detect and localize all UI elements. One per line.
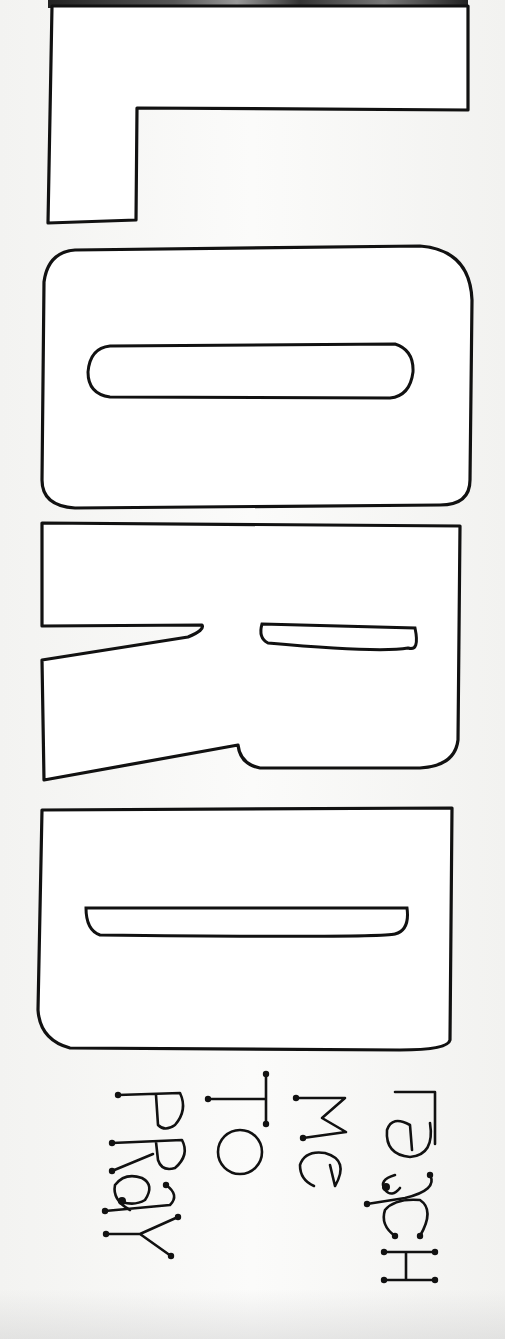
lettering-artwork [0, 0, 505, 1339]
letter-L [48, 6, 468, 223]
letter-R [42, 523, 460, 780]
photo-bottom-shadow [0, 1289, 505, 1339]
word-teach [364, 1092, 438, 1283]
letter-D [38, 808, 452, 1050]
letter-O [42, 246, 472, 508]
word-me [293, 1095, 346, 1186]
word-pray [102, 1092, 185, 1259]
word-to [205, 1071, 269, 1174]
